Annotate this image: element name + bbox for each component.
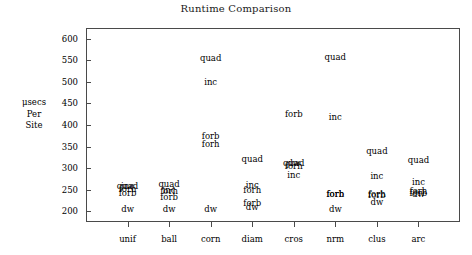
data-point-corn-dw: dw [204,205,217,214]
y-tick-label: 450 [48,99,78,108]
data-point-cros-forb: forb [285,110,303,119]
x-tick-label-ball: ball [146,235,192,244]
x-tick-label-nrm: nrm [312,235,358,244]
data-point-nrm-quad: quad [325,53,346,62]
y-tick-label: 300 [48,164,78,173]
data-point-corn-inc: inc [204,78,217,87]
x-tick-label-diam: diam [229,235,275,244]
x-tick-label-arc: arc [395,235,441,244]
y-tick-label: 600 [48,35,78,44]
data-point-diam-forh: forh [243,185,261,194]
data-point-unif-forb: forb [119,188,137,197]
x-tick-label-corn: corn [188,235,234,244]
x-tick-label-cros: cros [271,235,317,244]
data-point-diam-dw: dw [246,203,259,212]
plot-area: quadincforhforbdwquadincforhforbdwquadin… [86,28,460,222]
data-point-cros-inc: inc [287,170,300,179]
x-tick-label-clus: clus [354,235,400,244]
chart-figure: Runtime Comparison μsecsPerSite 20025030… [0,0,472,255]
data-point-nrm-forh: forh [326,190,344,199]
data-point-arc-quad: quad [408,156,429,165]
data-point-arc-dw: dw [412,190,425,199]
data-point-clus-quad: quad [366,147,387,156]
y-tick-label: 250 [48,185,78,194]
data-point-corn-forh: forh [202,140,220,149]
y-tick-label: 200 [48,207,78,216]
data-point-ball-forb: forb [160,192,178,201]
y-tick-label: 500 [48,78,78,87]
y-tick-label: 400 [48,121,78,130]
x-tick-mark [128,222,129,227]
data-point-clus-inc: inc [370,172,383,181]
x-tick-mark [169,222,170,227]
y-tick-label: 550 [48,56,78,65]
x-tick-mark [294,222,295,227]
data-point-nrm-inc: inc [329,113,342,122]
x-tick-mark [211,222,212,227]
data-point-clus-dw: dw [371,197,384,206]
x-tick-mark [335,222,336,227]
data-point-ball-dw: dw [163,205,176,214]
x-tick-mark [377,222,378,227]
x-tick-mark [252,222,253,227]
data-point-nrm-dw: dw [329,205,342,214]
x-tick-mark [418,222,419,227]
data-point-unif-dw: dw [121,205,134,214]
x-tick-label-unif: unif [105,235,151,244]
y-tick-label: 350 [48,142,78,151]
data-point-diam-quad: quad [242,155,263,164]
data-point-corn-quad: quad [200,54,221,63]
